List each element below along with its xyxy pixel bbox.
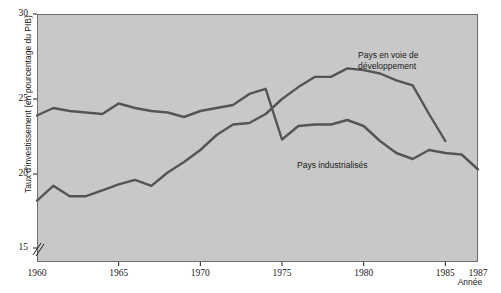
y-tick-15: 15 bbox=[6, 242, 28, 252]
x-tick-1975: 1975 bbox=[262, 268, 302, 278]
x-tick-1970: 1970 bbox=[180, 268, 220, 278]
x-axis-title: Année bbox=[448, 277, 492, 287]
y-axis-tick-marks bbox=[33, 14, 37, 248]
chart-overlay bbox=[0, 0, 501, 293]
series-label-industrialized-countries: Pays industrialisés bbox=[297, 160, 367, 171]
series-line-0 bbox=[37, 89, 478, 170]
y-axis-break-symbol bbox=[33, 243, 44, 256]
series-label-developing-countries: Pays en voie de développement bbox=[358, 50, 418, 72]
investment-rate-line-chart: 15202530 1960196519701975198019851987 Ta… bbox=[0, 0, 501, 293]
x-tick-1960: 1960 bbox=[17, 268, 57, 278]
y-axis-title: Taux d'investissement (en pourcentage du… bbox=[23, 33, 33, 193]
series-lines bbox=[37, 68, 478, 200]
x-tick-1965: 1965 bbox=[99, 268, 139, 278]
x-tick-1980: 1980 bbox=[344, 268, 384, 278]
series-line-1 bbox=[37, 68, 445, 200]
x-axis-tick-marks bbox=[119, 262, 446, 266]
